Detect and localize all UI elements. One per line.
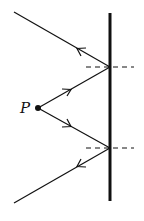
ray-incident-lower	[38, 108, 110, 148]
source-point	[35, 105, 41, 111]
reflection-diagram: P	[0, 0, 144, 221]
ray-reflected-lower	[14, 148, 110, 203]
ray-incident-upper	[38, 67, 110, 108]
arrow-icon	[62, 48, 86, 167]
ray-reflected-upper	[14, 12, 110, 67]
point-label: P	[19, 99, 31, 117]
